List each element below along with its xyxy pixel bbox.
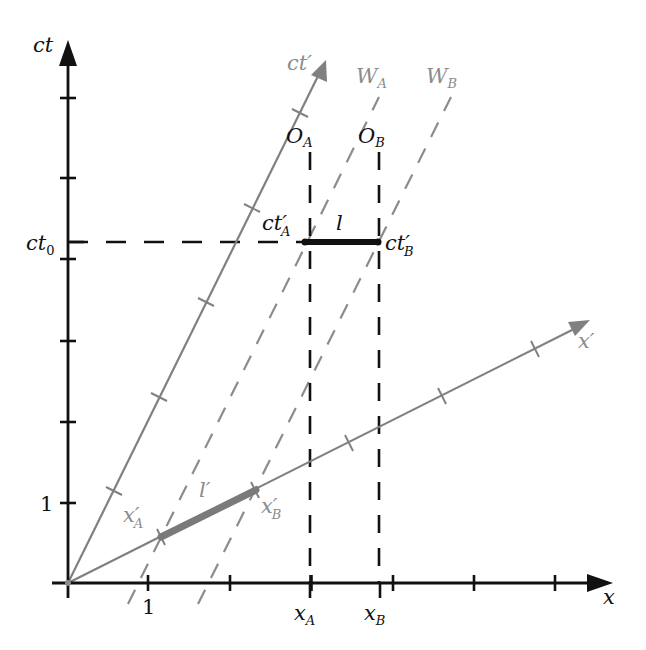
event-x-prime-a-label: x′A	[123, 503, 143, 531]
event-o-b-label: OB	[358, 124, 385, 150]
event-x-prime-b-label: x′B	[261, 494, 281, 522]
x-tick-label-1: 1	[142, 595, 155, 619]
ct0-label: ct0	[26, 231, 54, 258]
ct-arrowhead-icon	[59, 40, 77, 66]
x-axis-label: x	[603, 585, 615, 609]
segment-l-label: l	[336, 211, 343, 235]
ct-prime-axis-label: ct′	[287, 51, 312, 75]
worldline-a-label: WA	[356, 64, 387, 91]
origin-point	[65, 580, 71, 586]
x-prime-axis-label: x′	[578, 329, 595, 353]
x-axis	[52, 574, 613, 598]
x-b-label: xB	[364, 601, 385, 628]
ct-axis-label: ct	[33, 33, 54, 57]
spacetime-diagram: ct x ct′ x′ 1 1 ct0 OA OB WA WB ct′A ct′…	[0, 0, 646, 650]
ct-axis	[59, 40, 84, 598]
ct-prime-arrowhead-icon	[311, 60, 327, 82]
worldline-b-label: WB	[426, 64, 457, 91]
x-a-label: xA	[294, 601, 315, 628]
event-ct-prime-b-label: ct′B	[385, 231, 414, 259]
worldline-a	[128, 97, 379, 604]
segment-l	[302, 239, 382, 246]
event-ct-prime-a-label: ct′A	[262, 211, 290, 239]
event-o-a-label: OA	[286, 124, 313, 150]
segment-l-prime-label: l′	[199, 478, 211, 502]
ct-tick-label-1: 1	[40, 492, 53, 516]
x-prime-axis	[68, 320, 590, 583]
worldline-b	[198, 97, 451, 604]
